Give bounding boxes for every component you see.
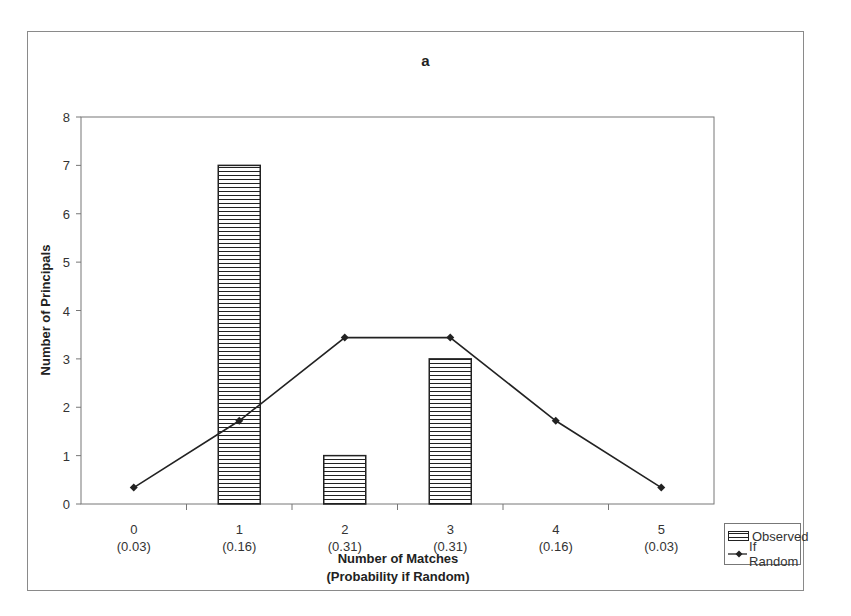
- x-axis-title: Number of Matches: [338, 551, 459, 566]
- line-diamond-marker-icon: [728, 548, 747, 560]
- y-tick-label: 7: [63, 158, 70, 173]
- y-tick-label: 3: [63, 352, 70, 367]
- y-axis-title: Number of Principals: [38, 245, 53, 376]
- y-axis: 012345678: [63, 110, 81, 512]
- y-tick-label: 5: [63, 255, 70, 270]
- observed-bar: [218, 165, 260, 504]
- legend-label-if-random: If Random: [749, 539, 801, 569]
- y-tick-label: 8: [63, 110, 70, 125]
- x-axis: 0(0.03)1(0.16)2(0.31)3(0.31)4(0.16)5(0.0…: [117, 504, 678, 554]
- x-tick-label: 0: [130, 522, 137, 537]
- x-tick-probability: (0.16): [222, 539, 256, 554]
- x-axis-subtitle: (Probability if Random): [327, 569, 470, 584]
- y-tick-label: 6: [63, 207, 70, 222]
- x-tick-label: 4: [552, 522, 559, 537]
- hatched-bar-swatch-icon: [728, 530, 750, 542]
- x-tick-label: 5: [658, 522, 665, 537]
- x-tick-label: 3: [447, 522, 454, 537]
- observed-bar: [429, 359, 471, 504]
- legend-item-if-random: If Random: [728, 545, 801, 563]
- x-tick-probability: (0.03): [644, 539, 678, 554]
- x-tick-label: 2: [341, 522, 348, 537]
- y-tick-label: 1: [63, 449, 70, 464]
- plot-area: [81, 117, 714, 504]
- y-tick-label: 2: [63, 400, 70, 415]
- y-tick-label: 4: [63, 304, 70, 319]
- observed-bar: [324, 456, 366, 504]
- legend: Observed If Random: [724, 523, 801, 565]
- x-tick-label: 1: [236, 522, 243, 537]
- x-tick-probability: (0.03): [117, 539, 151, 554]
- x-tick-probability: (0.16): [539, 539, 573, 554]
- y-tick-label: 0: [63, 497, 70, 512]
